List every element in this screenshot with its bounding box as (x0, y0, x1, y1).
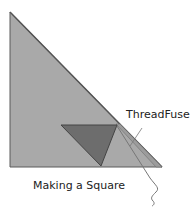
caption-label: Making a Square (33, 179, 125, 192)
diagram-canvas (0, 0, 194, 209)
threadfuse-label: ThreadFuse (126, 108, 190, 121)
